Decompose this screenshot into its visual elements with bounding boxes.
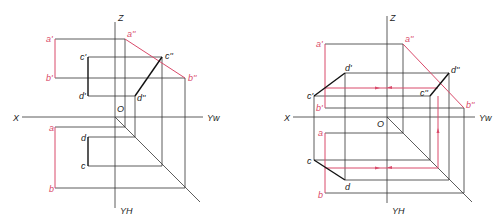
label-b-dprime: b''	[188, 73, 197, 83]
x-label: X	[12, 113, 20, 123]
diagonal-45	[115, 117, 200, 202]
label-b: b	[318, 190, 323, 200]
label-a-dprime: a''	[405, 34, 414, 44]
ab-side-view	[403, 44, 464, 108]
z-label: Z	[117, 13, 124, 23]
label-c-prime: c'	[80, 52, 87, 62]
cd-side-view	[135, 57, 162, 96]
label-d-prime: d'	[79, 91, 86, 101]
label-c: c	[307, 156, 312, 166]
origin-label: O	[377, 119, 384, 129]
right-figure: Z X Yw YH O a' b' a'' b'' a b c' d' c'' …	[283, 13, 492, 216]
x-label: X	[283, 113, 291, 123]
cd-front-view	[314, 73, 345, 96]
arrow-icon	[375, 167, 380, 170]
cd-side-view	[430, 73, 449, 96]
z-label: Z	[389, 13, 396, 23]
label-b-prime: b'	[316, 103, 323, 113]
label-b-dprime: b''	[466, 100, 475, 110]
arrow-icon	[387, 166, 392, 169]
cd-top-view	[314, 160, 345, 180]
projection-diagrams: Z X Yw YH O a' b' a'' b'' a b c' d' c'' …	[0, 0, 495, 224]
label-c-dprime: c''	[420, 88, 428, 98]
label-d-dprime: d''	[137, 93, 146, 103]
label-c: c	[81, 161, 86, 171]
label-d: d	[81, 133, 87, 143]
ab-side-view	[125, 39, 185, 78]
arrow-icon	[387, 86, 392, 89]
label-d-dprime: d''	[451, 65, 460, 75]
label-d-prime: d'	[345, 63, 352, 73]
arrow-icon	[437, 128, 440, 133]
label-d: d	[345, 182, 351, 192]
arrow-icon	[375, 87, 380, 90]
yw-label: Yw	[207, 113, 220, 123]
label-c-prime: c'	[307, 91, 314, 101]
origin-label: O	[117, 104, 124, 114]
label-a: a	[49, 123, 54, 133]
label-a-prime: a'	[316, 39, 323, 49]
diagonal-45	[387, 117, 472, 202]
left-figure: Z X Yw YH O a' b' a'' b'' a b c' d' c'' …	[12, 13, 220, 216]
label-a-prime: a'	[46, 34, 53, 44]
label-c-dprime: c''	[165, 51, 173, 61]
label-b: b	[49, 184, 54, 194]
yh-label: YH	[120, 206, 133, 216]
label-b-prime: b'	[46, 73, 53, 83]
label-a-dprime: a''	[127, 29, 136, 39]
label-a: a	[318, 128, 323, 138]
yw-label: Yw	[479, 113, 492, 123]
yh-label: YH	[392, 206, 405, 216]
